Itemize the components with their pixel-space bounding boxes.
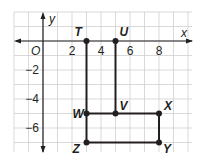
point-label-x: X (163, 99, 173, 113)
x-tick-label: 8 (156, 44, 163, 58)
x-axis-label: x (180, 26, 188, 40)
y-axis-label: y (48, 12, 56, 26)
coordinate-plane: y x O 2468 −2−4−6 TUVWXYZ (0, 0, 201, 160)
x-axis-right-arrow-icon (186, 39, 193, 44)
point-w (84, 111, 90, 117)
y-tick-labels: −2−4−6 (25, 63, 39, 135)
point-label-z: Z (72, 142, 81, 156)
point-x (156, 111, 162, 117)
axes (14, 12, 193, 153)
point-label-y: Y (163, 142, 172, 156)
x-tick-label: 2 (69, 44, 76, 58)
y-tick-label: −2 (25, 63, 39, 77)
point-label-v: V (120, 99, 129, 113)
y-axis-up-arrow-icon (41, 12, 46, 19)
grid-lines (14, 12, 192, 152)
point-label-w: W (73, 107, 86, 121)
point-v (113, 111, 119, 117)
x-tick-label: 4 (98, 44, 105, 58)
point-t (84, 38, 90, 44)
x-axis-left-arrow-icon (14, 39, 21, 44)
y-axis-down-arrow-icon (41, 146, 46, 153)
point-z (84, 140, 90, 146)
point-label-u: U (120, 25, 129, 39)
origin-label: O (31, 44, 40, 58)
point-label-t: T (75, 25, 84, 39)
point-u (113, 38, 119, 44)
y-tick-label: −6 (25, 121, 39, 135)
point-y (156, 140, 162, 146)
y-tick-label: −4 (25, 92, 39, 106)
x-tick-label: 6 (127, 44, 134, 58)
